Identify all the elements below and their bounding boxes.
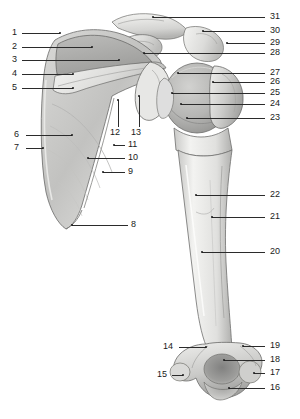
leader-line-21 — [212, 217, 265, 218]
leader-line-29 — [227, 43, 265, 44]
leader-dot-6 — [71, 134, 73, 136]
leader-dot-20 — [201, 251, 203, 253]
leader-dot-31 — [152, 16, 154, 18]
leader-line-14 — [179, 347, 206, 348]
label-18[interactable]: 18 — [270, 355, 280, 364]
leader-dot-16 — [228, 387, 230, 389]
leader-dot-25 — [171, 92, 173, 94]
leader-dot-3 — [118, 59, 120, 61]
label-22[interactable]: 22 — [270, 190, 280, 199]
leader-dot-12 — [117, 99, 119, 101]
leader-dot-1 — [59, 32, 61, 34]
leader-line-11 — [114, 145, 125, 146]
leader-dot-26 — [212, 81, 214, 83]
leader-dot-14 — [205, 346, 207, 348]
leader-line-25 — [172, 93, 265, 94]
leader-dot-11 — [113, 144, 115, 146]
label-16[interactable]: 16 — [270, 383, 280, 392]
leader-dot-30 — [202, 30, 204, 32]
leader-dot-9 — [102, 171, 104, 173]
leader-line-10 — [88, 158, 125, 159]
leader-dot-19 — [242, 345, 244, 347]
label-17[interactable]: 17 — [270, 368, 280, 377]
leader-line-1 — [22, 33, 60, 34]
leader-dot-10 — [87, 157, 89, 159]
leader-line-17 — [254, 373, 265, 374]
leader-line-5 — [22, 88, 73, 89]
leader-line-13 — [139, 96, 140, 127]
leader-line-2 — [22, 47, 92, 48]
label-20[interactable]: 20 — [270, 247, 280, 256]
leader-dot-21 — [211, 216, 213, 218]
label-8[interactable]: 8 — [131, 220, 136, 229]
label-21[interactable]: 21 — [270, 212, 280, 221]
label-10[interactable]: 10 — [128, 153, 138, 162]
leader-line-3 — [22, 60, 119, 61]
leader-line-4 — [22, 74, 73, 75]
label-30[interactable]: 30 — [270, 26, 280, 35]
leader-dot-7 — [42, 147, 44, 149]
label-7[interactable]: 7 — [14, 143, 19, 152]
label-24[interactable]: 24 — [270, 99, 280, 108]
leader-line-22 — [196, 195, 265, 196]
label-4[interactable]: 4 — [12, 69, 17, 78]
label-6[interactable]: 6 — [14, 130, 19, 139]
label-2[interactable]: 2 — [12, 42, 17, 51]
leader-dot-22 — [195, 194, 197, 196]
label-3[interactable]: 3 — [12, 55, 17, 64]
leader-dot-29 — [226, 42, 228, 44]
leader-line-27 — [178, 73, 265, 74]
leader-dot-24 — [180, 103, 182, 105]
leader-dot-18 — [223, 359, 225, 361]
leader-line-26 — [213, 82, 265, 83]
leader-dot-2 — [91, 46, 93, 48]
label-29[interactable]: 29 — [270, 38, 280, 47]
figure-canvas: 1 2 3 4 5 6 7 8 9 10 11 12 13 14 15 16 1… — [0, 0, 300, 419]
leader-line-23 — [187, 118, 265, 119]
leader-line-20 — [202, 252, 265, 253]
leader-dot-28 — [143, 52, 145, 54]
label-9[interactable]: 9 — [128, 167, 133, 176]
leader-line-19 — [243, 346, 265, 347]
leader-line-9 — [103, 172, 125, 173]
leader-line-7 — [26, 148, 43, 149]
label-25[interactable]: 25 — [270, 88, 280, 97]
leader-line-30 — [203, 31, 265, 32]
leader-dot-4 — [72, 73, 74, 75]
leader-line-28 — [144, 53, 265, 54]
label-28[interactable]: 28 — [270, 48, 280, 57]
leader-dot-23 — [186, 117, 188, 119]
leader-dot-5 — [72, 87, 74, 89]
label-12[interactable]: 12 — [110, 128, 120, 137]
leader-dot-13 — [138, 95, 140, 97]
leader-line-31 — [153, 17, 265, 18]
label-31[interactable]: 31 — [270, 12, 280, 21]
label-15[interactable]: 15 — [157, 370, 167, 379]
leader-dot-27 — [177, 72, 179, 74]
label-1[interactable]: 1 — [12, 28, 17, 37]
leader-line-8 — [72, 225, 128, 226]
label-5[interactable]: 5 — [12, 83, 17, 92]
label-11[interactable]: 11 — [128, 140, 137, 149]
label-26[interactable]: 26 — [270, 77, 280, 86]
leader-dot-8 — [71, 224, 73, 226]
leader-line-24 — [181, 104, 265, 105]
label-19[interactable]: 19 — [270, 341, 280, 350]
leader-line-16 — [229, 388, 265, 389]
leader-line-18 — [224, 360, 265, 361]
label-23[interactable]: 23 — [270, 113, 280, 122]
label-13[interactable]: 13 — [131, 128, 141, 137]
anatomy-illustration — [0, 0, 300, 419]
leader-line-12 — [118, 100, 119, 127]
label-14[interactable]: 14 — [163, 342, 173, 351]
leader-line-6 — [26, 135, 72, 136]
label-27[interactable]: 27 — [270, 68, 280, 77]
leader-dot-17 — [253, 372, 255, 374]
leader-dot-15 — [182, 374, 184, 376]
